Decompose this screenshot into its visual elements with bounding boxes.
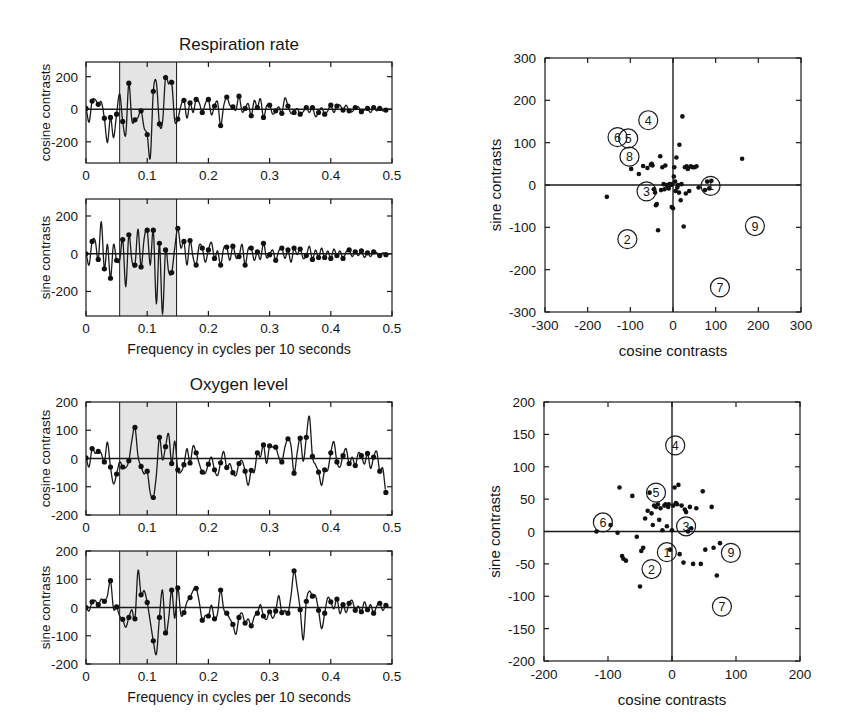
panel-title: Oxygen level xyxy=(190,375,288,394)
x-tick-label: 0.1 xyxy=(138,168,157,183)
x-tick-label: 200 xyxy=(747,318,770,333)
data-point xyxy=(298,246,303,251)
subject-marker-9: 9 xyxy=(721,543,740,562)
data-point xyxy=(230,104,235,109)
y-tick-label: 300 xyxy=(513,51,536,66)
data-point xyxy=(383,252,388,257)
subject-marker-4: 4 xyxy=(639,111,658,130)
y-tick-label: 0 xyxy=(70,102,78,117)
x-tick-label: 0.2 xyxy=(199,168,218,183)
data-point xyxy=(224,465,229,470)
data-point xyxy=(310,257,315,262)
y-tick-label: -300 xyxy=(509,305,536,320)
x-tick-label: 0.2 xyxy=(199,520,218,535)
y-axis-label: sine contrasts xyxy=(486,485,503,578)
data-point xyxy=(200,245,205,250)
data-point xyxy=(187,595,192,600)
data-point xyxy=(236,461,241,466)
data-point xyxy=(187,100,192,105)
data-point xyxy=(163,630,168,635)
data-point xyxy=(243,620,248,625)
data-point xyxy=(230,244,235,249)
y-axis-label: cosine contrasts xyxy=(38,409,53,507)
data-point xyxy=(377,469,382,474)
x-tick-label: 0.1 xyxy=(138,669,157,684)
data-point xyxy=(304,253,309,258)
data-point xyxy=(334,459,339,464)
scatter-point xyxy=(694,506,699,511)
y-tick-label: 0 xyxy=(70,601,78,616)
data-point xyxy=(151,638,156,643)
data-point xyxy=(151,89,156,94)
data-point xyxy=(206,97,211,102)
scatter-point xyxy=(624,558,629,563)
data-point xyxy=(347,108,352,113)
data-point xyxy=(285,103,290,108)
scatter-point xyxy=(696,185,701,190)
x-tick-label: -300 xyxy=(531,318,558,333)
x-tick-label: 0.1 xyxy=(138,520,157,535)
data-point xyxy=(102,116,107,121)
scatter-point xyxy=(617,485,622,490)
data-point xyxy=(157,241,162,246)
scatter-point xyxy=(658,154,663,159)
data-point xyxy=(218,587,223,592)
data-point xyxy=(169,461,174,466)
scatter-point xyxy=(672,165,677,170)
data-point xyxy=(267,443,272,448)
data-point xyxy=(261,442,266,447)
data-point xyxy=(145,228,150,233)
data-point xyxy=(83,106,88,111)
data-point xyxy=(389,0,394,3)
y-tick-label: -200 xyxy=(51,135,78,150)
data-point xyxy=(347,601,352,606)
data-point xyxy=(243,106,248,111)
data-point xyxy=(273,608,278,613)
data-point xyxy=(291,471,296,476)
data-point xyxy=(145,600,150,605)
data-point xyxy=(90,239,95,244)
x-tick-label: 200 xyxy=(789,667,812,682)
scatter-point xyxy=(665,524,670,529)
data-point xyxy=(383,603,388,608)
scatter-point xyxy=(635,534,640,539)
scatter-point xyxy=(641,164,646,169)
data-point xyxy=(157,121,162,126)
marker-label: 7 xyxy=(716,281,723,295)
x-axis-label: Frequency in cycles per 10 seconds xyxy=(127,341,350,357)
y-tick-label: -100 xyxy=(509,220,536,235)
scatter-point xyxy=(681,224,686,229)
data-point xyxy=(371,105,376,110)
data-point xyxy=(83,605,88,610)
data-point xyxy=(132,425,137,430)
data-point xyxy=(255,105,260,110)
data-point xyxy=(138,264,143,269)
subject-marker-7: 7 xyxy=(710,278,729,297)
x-tick-label: 0.2 xyxy=(199,321,218,336)
x-tick-label: 0 xyxy=(82,520,90,535)
data-point xyxy=(340,256,345,261)
data-point xyxy=(218,460,223,465)
data-point xyxy=(236,254,241,259)
data-point xyxy=(310,105,315,110)
marker-label: 9 xyxy=(751,220,758,234)
marker-label: 6 xyxy=(599,516,606,530)
data-point xyxy=(316,255,321,260)
scatter-point xyxy=(689,526,694,531)
figure-canvas: 00.10.20.30.40.5-2000200Respiration rate… xyxy=(0,0,843,724)
x-tick-label: 0.4 xyxy=(321,168,340,183)
multi-panel-figure: 00.10.20.30.40.5-2000200Respiration rate… xyxy=(0,0,843,724)
subject-marker-2: 2 xyxy=(618,230,637,249)
y-tick-label: -200 xyxy=(508,654,535,669)
marker-label: 9 xyxy=(727,546,734,560)
subject-marker-4: 4 xyxy=(666,436,685,455)
scatter-point xyxy=(645,508,650,513)
y-tick-label: -200 xyxy=(51,284,78,299)
scatter-point xyxy=(657,518,662,523)
scatter-point xyxy=(667,502,672,507)
data-point xyxy=(230,622,235,627)
scatter-point xyxy=(670,528,675,533)
scatter-point xyxy=(676,483,681,488)
panel-oxygen-scatter: -200-1000100200-200-150-100-500501001502… xyxy=(508,395,811,682)
scatter-point xyxy=(699,562,704,567)
